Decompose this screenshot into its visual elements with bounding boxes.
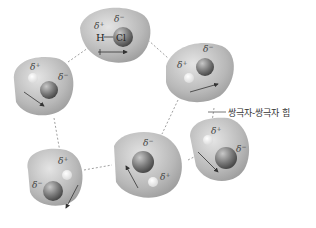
molecule-hcl: H Cl δ+ δ−: [80, 8, 150, 63]
molecule-left-upper: δ+ δ−: [14, 57, 74, 115]
svg-text:Cl: Cl: [116, 33, 126, 43]
molecule-right-lower: δ+ δ−: [190, 118, 249, 181]
molecule-left-lower: δ+ δ−: [28, 149, 83, 208]
molecule-right-upper: δ+ δ−: [166, 43, 234, 102]
molecule-center-lower: δ− δ+: [114, 132, 182, 198]
dipole-dipole-force-label: 쌍극자-쌍극자 힘: [228, 106, 290, 119]
svg-text:H: H: [96, 32, 105, 43]
